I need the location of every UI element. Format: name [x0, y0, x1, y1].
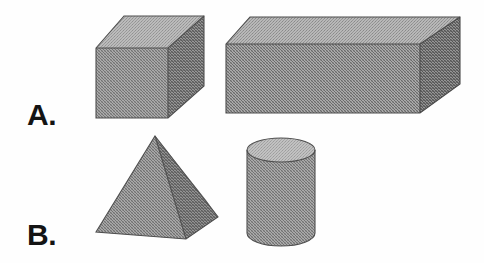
shape-cube: [96, 16, 204, 118]
prism-front-texture: [226, 44, 420, 113]
shape-square-pyramid: [96, 136, 218, 239]
shape-cylinder: [247, 138, 315, 246]
cube-front-texture: [96, 48, 168, 118]
prism-top-texture: [226, 17, 460, 44]
cylinder-body-texture: [247, 150, 315, 246]
shape-rectangular-prism: [226, 17, 460, 113]
solids-illustration: [0, 0, 484, 263]
worksheet-page: A. B.: [0, 0, 484, 263]
